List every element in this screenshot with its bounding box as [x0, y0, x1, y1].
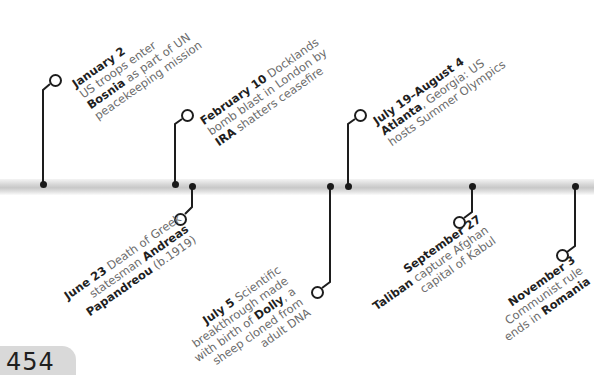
event-dot-jul5	[327, 183, 334, 190]
page-number: 454	[6, 348, 55, 375]
event-dot-olympics	[345, 183, 352, 190]
event-marker-jan	[49, 74, 62, 87]
event-dot-jan	[40, 181, 47, 188]
event-dot-nov	[572, 183, 579, 190]
event-marker-feb	[181, 109, 194, 122]
event-dot-jun	[189, 183, 196, 190]
event-dot-feb	[172, 181, 179, 188]
event-marker-jul5	[311, 286, 324, 299]
page-number-tab: 454	[0, 346, 76, 375]
event-dot-sep	[469, 183, 476, 190]
event-marker-olympics	[354, 109, 367, 122]
